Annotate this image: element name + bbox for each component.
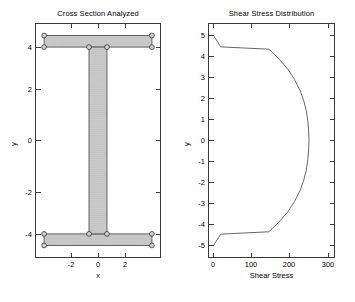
- cs-xtick-2: [125, 253, 126, 258]
- cs-yticklabel-0: 0: [16, 136, 32, 145]
- ss-xticklabel-100: 100: [243, 260, 259, 269]
- ss-ytick-r2: [330, 98, 334, 99]
- cs-ytick-rm2: [156, 192, 160, 193]
- matlab-figure: Cross Section Analyzed: [0, 0, 355, 302]
- cs-xtick-top-2: [125, 24, 126, 28]
- ss-ytick-r0: [330, 140, 334, 141]
- cs-ytick-0: [36, 140, 41, 141]
- cs-ytick-r0: [156, 140, 160, 141]
- ss-ytick-m2: [209, 182, 214, 183]
- ss-xtick-0: [213, 253, 214, 258]
- ss-ytick-1: [209, 119, 214, 120]
- ss-ytick-m1: [209, 161, 214, 162]
- ss-xaxis-label: Shear Stress: [208, 271, 335, 280]
- ss-yticklabel-m2: -2: [189, 178, 205, 187]
- cs-xtick-1: [98, 253, 99, 258]
- ss-ytick-2: [209, 98, 214, 99]
- cs-xtick-top-1: [98, 24, 99, 28]
- ss-yticklabel-0: 0: [189, 136, 205, 145]
- cs-xaxis-label: x: [35, 271, 161, 280]
- cs-ytick-r4: [156, 47, 160, 48]
- cs-ytick-m2: [36, 192, 41, 193]
- ss-yticklabel-5: 5: [189, 31, 205, 40]
- ss-ytick-rm3: [330, 203, 334, 204]
- cs-xtick-0: [71, 253, 72, 258]
- ss-ytick-3: [209, 77, 214, 78]
- subplot-shear-stress: Shear Stress Distribution 0 100 200 300 …: [178, 0, 355, 302]
- ss-ytick-0: [209, 140, 214, 141]
- cs-ytick-2: [36, 89, 41, 90]
- subplot-cross-section: Cross Section Analyzed: [0, 0, 178, 302]
- ss-xtick-top-100: [251, 24, 252, 28]
- ss-yaxis-label: y: [182, 142, 191, 146]
- cs-yticklabel-m4: -4: [16, 230, 32, 239]
- ss-ytick-m4: [209, 224, 214, 225]
- cs-xticklabel-0: -2: [63, 260, 79, 269]
- shear-stress-title: Shear Stress Distribution: [208, 9, 335, 18]
- ss-xtick-top-300: [328, 24, 329, 28]
- ss-xticklabel-200: 200: [281, 260, 297, 269]
- cs-ytick-m4: [36, 234, 41, 235]
- cs-yticklabel-4: 4: [16, 43, 32, 52]
- ss-xtick-100: [251, 253, 252, 258]
- ss-ytick-5: [209, 35, 214, 36]
- ss-ytick-rm2: [330, 182, 334, 183]
- cross-section-title: Cross Section Analyzed: [35, 9, 161, 18]
- ss-xtick-top-0: [213, 24, 214, 28]
- ss-ytick-r3: [330, 77, 334, 78]
- ss-yticklabel-3: 3: [189, 73, 205, 82]
- ss-ytick-m3: [209, 203, 214, 204]
- cs-xtick-top-0: [71, 24, 72, 28]
- ss-ytick-r1: [330, 119, 334, 120]
- ss-yticklabel-m5: -5: [189, 241, 205, 250]
- ss-ytick-4: [209, 56, 214, 57]
- ss-xticklabel-0: 0: [205, 260, 221, 269]
- ss-ytick-r5: [330, 35, 334, 36]
- ss-ytick-rm1: [330, 161, 334, 162]
- cs-yticklabel-m2: -2: [16, 188, 32, 197]
- shear-stress-curve: [209, 24, 334, 257]
- ss-xtick-200: [289, 253, 290, 258]
- ss-yticklabel-m4: -4: [189, 220, 205, 229]
- ss-ytick-r4: [330, 56, 334, 57]
- ss-yticklabel-m3: -3: [189, 199, 205, 208]
- cs-yaxis-label: y: [9, 142, 18, 146]
- ss-yticklabel-4: 4: [189, 52, 205, 61]
- cs-ytick-4: [36, 47, 41, 48]
- ss-xtick-300: [328, 253, 329, 258]
- ss-xticklabel-300: 300: [320, 260, 336, 269]
- ss-ytick-rm4: [330, 224, 334, 225]
- cs-ytick-r2: [156, 89, 160, 90]
- cs-xticklabel-2: 2: [117, 260, 133, 269]
- ss-xtick-top-200: [289, 24, 290, 28]
- ss-yticklabel-1: 1: [189, 115, 205, 124]
- ss-yticklabel-2: 2: [189, 94, 205, 103]
- cs-yticklabel-2: 2: [16, 85, 32, 94]
- cross-section-geometry: [36, 24, 160, 257]
- cs-ytick-rm4: [156, 234, 160, 235]
- ss-ytick-m5: [209, 245, 214, 246]
- ss-ytick-rm5: [330, 245, 334, 246]
- cs-xticklabel-1: 0: [90, 260, 106, 269]
- ss-yticklabel-m1: -1: [189, 157, 205, 166]
